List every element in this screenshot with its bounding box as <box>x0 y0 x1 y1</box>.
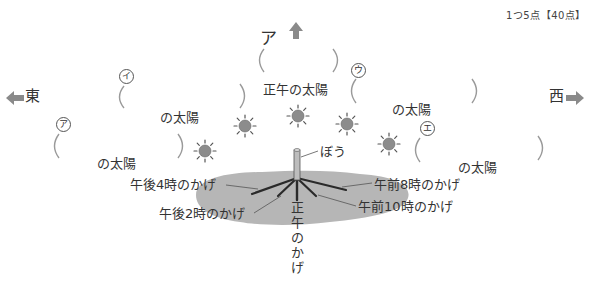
stick-leader <box>301 151 318 157</box>
sun-icon-e <box>378 133 400 155</box>
sun-suffix-u: の太陽 <box>392 103 431 116</box>
pm2-shadow-label: 午後2時のかげ <box>159 207 245 220</box>
west-label: 西 <box>549 89 564 104</box>
noon-shadow-label: 正 午 の か げ <box>290 200 304 275</box>
noon-char-4: か <box>290 245 304 260</box>
paren-top-right <box>333 49 338 72</box>
sun-suffix-a: の太陽 <box>97 157 136 170</box>
circled-label-a: ア <box>56 117 71 132</box>
sun-icon-noon <box>287 105 309 127</box>
score-note: 1つ5点【40点】 <box>506 11 586 21</box>
paren-u-right <box>472 79 477 103</box>
stick <box>294 150 300 180</box>
sun-icon-i <box>234 115 256 137</box>
paren-e-left <box>416 138 421 162</box>
paren-e-right <box>538 136 543 160</box>
north-arrow-icon <box>289 22 303 39</box>
stick-label: ぼう <box>320 145 346 158</box>
noon-sun-label: 正午の太陽 <box>263 83 328 96</box>
paren-u-left <box>352 79 357 103</box>
east-arrow-icon <box>6 91 24 105</box>
circled-label-e: エ <box>420 121 435 136</box>
west-arrow-icon <box>566 91 584 105</box>
am10-shadow-label: 午前10時のかげ <box>358 200 453 213</box>
paren-i-right <box>240 84 245 108</box>
sun-shadow-diagram: 1つ5点【40点】 ア 東 西 正午の太陽 イ ア ウ エ の太陽 の太陽 の太… <box>0 0 596 288</box>
noon-char-2: 午 <box>290 215 304 230</box>
sun-icon-a <box>194 140 216 162</box>
pm4-shadow-label: 午後4時のかげ <box>130 178 216 191</box>
noon-char-1: 正 <box>290 200 304 215</box>
paren-a-left <box>55 134 60 158</box>
paren-i-left <box>120 86 125 108</box>
noon-char-3: の <box>290 230 304 245</box>
sun-icon-u <box>336 113 358 135</box>
east-label: 東 <box>25 89 40 104</box>
sun-suffix-i: の太陽 <box>160 111 199 124</box>
circled-label-i: イ <box>119 69 134 84</box>
sun-suffix-e: の太陽 <box>458 161 497 174</box>
circled-label-u: ウ <box>351 63 366 78</box>
top-blank-label: ア <box>260 30 277 47</box>
paren-a-right <box>178 134 183 158</box>
am8-shadow-label: 午前8時のかげ <box>374 178 460 191</box>
paren-top-left <box>260 49 265 72</box>
noon-char-5: げ <box>290 260 304 275</box>
